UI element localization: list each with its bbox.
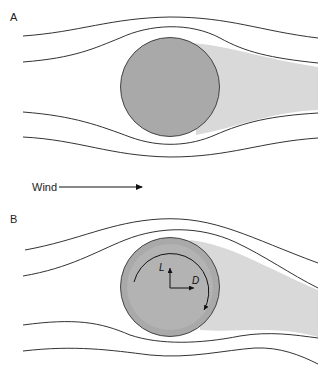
panel-b: B L D — [10, 213, 318, 364]
streamline — [23, 17, 318, 38]
lift-label: L — [159, 262, 165, 273]
streamline — [23, 137, 318, 157]
drag-label: D — [192, 275, 199, 286]
streamline — [23, 348, 318, 364]
wind-indicator: Wind — [32, 181, 142, 193]
magnus-effect-diagram: A Wind B L D — [0, 0, 332, 374]
panel-a-label: A — [10, 11, 18, 23]
sphere-a — [121, 38, 220, 137]
wind-label: Wind — [32, 181, 57, 193]
panel-b-label: B — [10, 213, 17, 225]
panel-a: A — [10, 11, 318, 157]
